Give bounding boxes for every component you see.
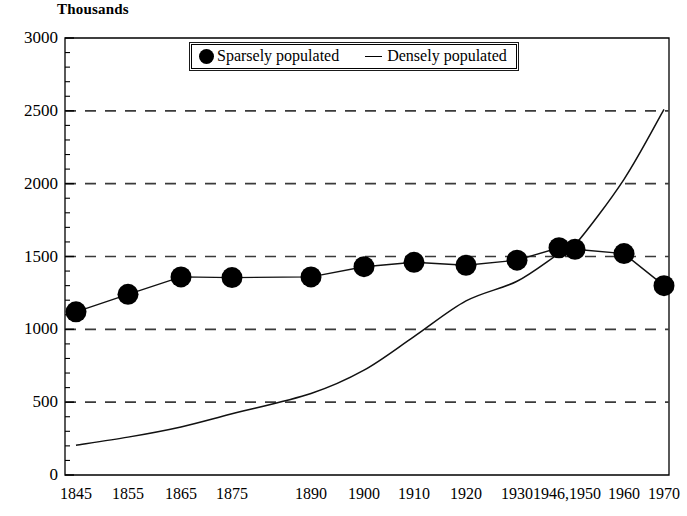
- y-axis-tick-labels: 050010001500200025003000: [0, 0, 58, 516]
- data-point-marker: [171, 266, 192, 287]
- legend-label-sparsely-populated: Sparsely populated: [217, 47, 339, 65]
- plot-area: [0, 0, 687, 516]
- y-axis-tick-label: 1500: [2, 247, 58, 267]
- data-point-marker: [222, 267, 243, 288]
- chart-figure: Thousands 050010001500200025003000 18451…: [0, 0, 687, 516]
- legend-label-densely-populated: Densely populated: [387, 47, 507, 65]
- x-axis-tick-label: 1930: [501, 485, 533, 503]
- y-axis-tick-label: 0: [2, 465, 58, 485]
- data-point-marker: [456, 255, 477, 276]
- data-point-marker: [404, 252, 425, 273]
- data-point-marker: [118, 284, 139, 305]
- data-point-marker: [565, 239, 586, 260]
- data-point-marker: [614, 243, 635, 264]
- x-axis-tick-label: 1865: [165, 485, 197, 503]
- data-point-marker: [66, 301, 87, 322]
- y-axis-tick-label: 3000: [2, 28, 58, 48]
- y-axis-tick-label: 500: [2, 392, 58, 412]
- x-axis-tick-label: 1946,1950: [533, 485, 601, 503]
- data-point-marker: [354, 256, 375, 277]
- data-point-marker: [507, 250, 528, 271]
- x-axis-tick-label: 1900: [348, 485, 380, 503]
- legend-item-sparsely-populated: Sparsely populated: [199, 47, 339, 65]
- x-axis-tick-label: 1920: [450, 485, 482, 503]
- chart-legend: Sparsely populated Densely populated: [191, 44, 517, 69]
- line-marker-icon: [365, 56, 382, 57]
- x-axis-tick-label: 1845: [60, 485, 92, 503]
- data-point-marker: [654, 275, 675, 296]
- y-axis-tick-label: 1000: [2, 319, 58, 339]
- x-axis-tick-label: 1960: [608, 485, 640, 503]
- x-axis-tick-label: 1910: [398, 485, 430, 503]
- series-line-densely-populated: [76, 109, 664, 445]
- x-axis-tick-label: 1855: [112, 485, 144, 503]
- y-axis-tick-label: 2000: [2, 174, 58, 194]
- legend-item-densely-populated: Densely populated: [365, 47, 507, 65]
- x-axis-tick-label: 1890: [295, 485, 327, 503]
- x-axis-tick-label: 1875: [216, 485, 248, 503]
- data-point-marker: [301, 266, 322, 287]
- x-axis-tick-label: 1970: [648, 485, 680, 503]
- filled-circle-marker-icon: [199, 49, 214, 64]
- chart-unit-title: Thousands: [57, 1, 129, 18]
- y-axis-tick-label: 2500: [2, 101, 58, 121]
